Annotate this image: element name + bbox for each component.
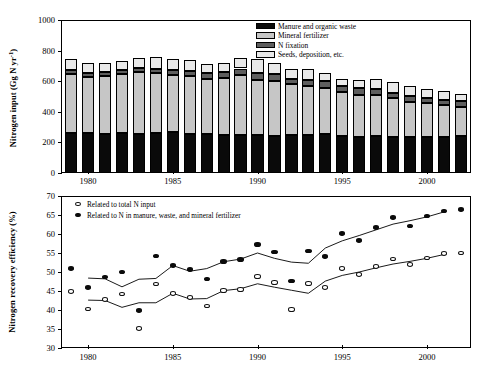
scatter-point-open	[187, 295, 193, 300]
scatter-point-open	[305, 281, 311, 286]
scatter-point-open	[136, 326, 142, 331]
scatter-point-filled	[458, 207, 464, 212]
scatter-point-open	[204, 304, 210, 309]
scatter-point-open	[288, 307, 294, 312]
scatter-point-filled	[288, 279, 294, 284]
scatter-point-filled	[68, 266, 74, 271]
scatter-point-filled	[373, 225, 379, 230]
scatter-point-filled	[187, 267, 193, 272]
scatter-point-filled	[85, 285, 91, 290]
scatter-point-filled	[356, 238, 362, 243]
trend-line	[88, 255, 444, 308]
scatter-point-open	[441, 251, 447, 256]
legend-marker-open	[75, 202, 81, 207]
scatter-point-filled	[390, 215, 396, 220]
legend-label-open: Related to total N input	[87, 200, 156, 210]
scatter-point-filled	[204, 277, 210, 282]
scatter-point-open	[237, 287, 243, 292]
trend-lines	[0, 0, 490, 386]
scatter-point-filled	[136, 308, 142, 313]
scatter-point-filled	[339, 231, 345, 236]
legend-label-filled: Related to N in manure, waste, and miner…	[87, 211, 241, 221]
scatter-point-open	[170, 291, 176, 296]
scatter-point-open	[271, 280, 277, 285]
scatter-point-filled	[220, 259, 226, 264]
scatter-point-open	[102, 297, 108, 302]
scatter-point-filled	[441, 209, 447, 214]
scatter-point-open	[220, 288, 226, 293]
legend-marker-filled	[75, 213, 81, 218]
scatter-point-open	[68, 289, 74, 294]
scatter-point-filled	[271, 250, 277, 255]
scatter-point-filled	[322, 254, 328, 259]
scatter-point-open	[254, 274, 260, 279]
trend-line	[88, 212, 444, 287]
scatter-point-filled	[237, 257, 243, 262]
scatter-point-filled	[305, 249, 311, 254]
scatter-point-filled	[170, 263, 176, 268]
figure-root: Nitrogen input (Gg N yr-1) 0200400600800…	[0, 0, 490, 386]
scatter-point-filled	[254, 242, 260, 247]
